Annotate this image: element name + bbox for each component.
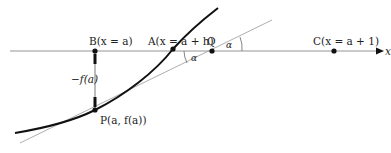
point-C bbox=[331, 48, 336, 53]
point-Q bbox=[209, 48, 214, 53]
neg-fa-label: −f(a) bbox=[71, 73, 98, 85]
neg-fa-arrow-top bbox=[94, 54, 97, 64]
x-axis-label: x bbox=[385, 45, 391, 57]
label-C: C(x = a + 1) bbox=[313, 35, 379, 47]
label-A: A(x = a + h) bbox=[147, 35, 214, 47]
point-B bbox=[92, 48, 97, 53]
angle-arc-left bbox=[184, 51, 187, 63]
label-Q: Q bbox=[207, 35, 216, 47]
x-axis-arrow-icon bbox=[376, 48, 384, 55]
derivative-tangent-diagram: x −f(a) B(x = a) A(x = a + h) Q C(x = a … bbox=[0, 0, 391, 153]
point-A bbox=[170, 46, 175, 51]
point-P bbox=[92, 107, 97, 112]
angle-arc-right bbox=[240, 37, 242, 51]
neg-fa-arrow-bottom bbox=[94, 97, 97, 107]
alpha-right: α bbox=[226, 40, 232, 50]
alpha-left: α bbox=[191, 53, 197, 63]
label-B: B(x = a) bbox=[89, 35, 133, 47]
label-P: P(a, f(a)) bbox=[100, 114, 147, 126]
